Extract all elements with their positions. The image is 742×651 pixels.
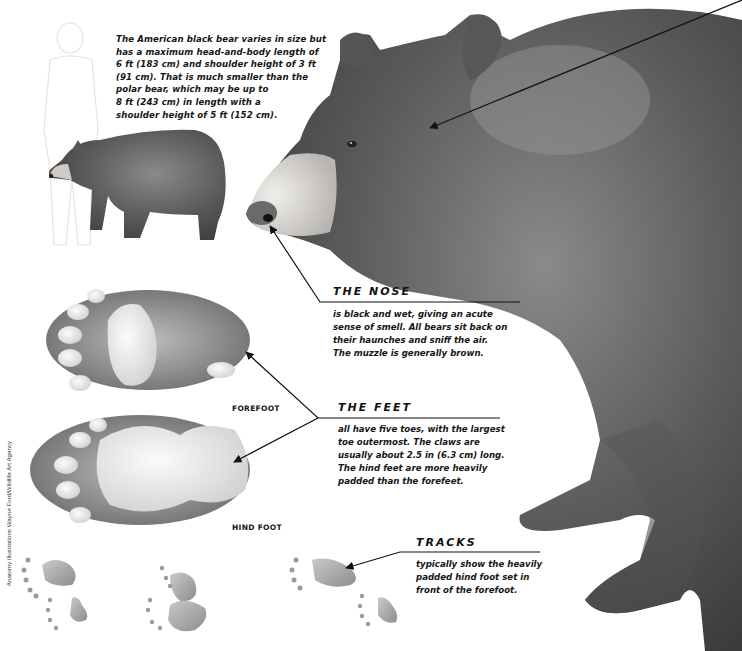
nose-line: their haunches and sniff the air. xyxy=(333,334,543,347)
feet-heading: THE FEET xyxy=(338,401,412,414)
tracks-line: padded hind foot set in xyxy=(416,571,576,584)
feet-line: all have five toes, with the largest xyxy=(338,423,538,436)
feet-line: padded than the forefeet. xyxy=(338,475,538,488)
intro-line: polar bear, which may be up to xyxy=(116,83,356,96)
nose-line: The muzzle is generally brown. xyxy=(333,347,543,360)
forefoot-paw-illustration xyxy=(46,289,250,391)
feet-description: all have five toes, with the largest toe… xyxy=(338,423,538,488)
intro-line: has a maximum head-and-body length of xyxy=(116,46,356,59)
forefoot-label: FOREFOOT xyxy=(232,404,280,413)
hind-foot-label: HIND FOOT xyxy=(232,523,282,532)
tracks-illustration xyxy=(22,558,398,632)
small-bear-illustration xyxy=(49,130,226,240)
tracks-line: typically show the heavily xyxy=(416,558,576,571)
nose-heading: THE NOSE xyxy=(333,285,411,298)
tracks-heading: TRACKS xyxy=(416,536,477,549)
intro-line: 8 ft (243 cm) in length with a xyxy=(116,96,356,109)
intro-paragraph: The American black bear varies in size b… xyxy=(116,33,356,121)
intro-line: 6 ft (183 cm) and shoulder height of 3 f… xyxy=(116,58,356,71)
nose-line: sense of smell. All bears sit back on xyxy=(333,321,543,334)
hind-foot-paw-illustration xyxy=(30,415,250,525)
tracks-line: front of the forefoot. xyxy=(416,584,576,597)
feet-line: toe outermost. The claws are xyxy=(338,436,538,449)
human-silhouette xyxy=(44,23,98,245)
feet-line: The hind feet are more heavily xyxy=(338,462,538,475)
nose-line: is black and wet, giving an acute xyxy=(333,308,543,321)
illustration-credit: Anatomy illustrations Wayne Ford/Wildlif… xyxy=(5,414,12,614)
intro-line: shoulder height of 5 ft (152 cm). xyxy=(116,109,356,122)
tracks-description: typically show the heavily padded hind f… xyxy=(416,558,576,597)
intro-line: (91 cm). That is much smaller than the xyxy=(116,71,356,84)
feet-line: usually about 2.5 in (6.3 cm) long. xyxy=(338,449,538,462)
nose-description: is black and wet, giving an acute sense … xyxy=(333,308,543,360)
hind-foot-leader-line xyxy=(234,418,318,462)
intro-line: The American black bear varies in size b… xyxy=(116,33,356,46)
